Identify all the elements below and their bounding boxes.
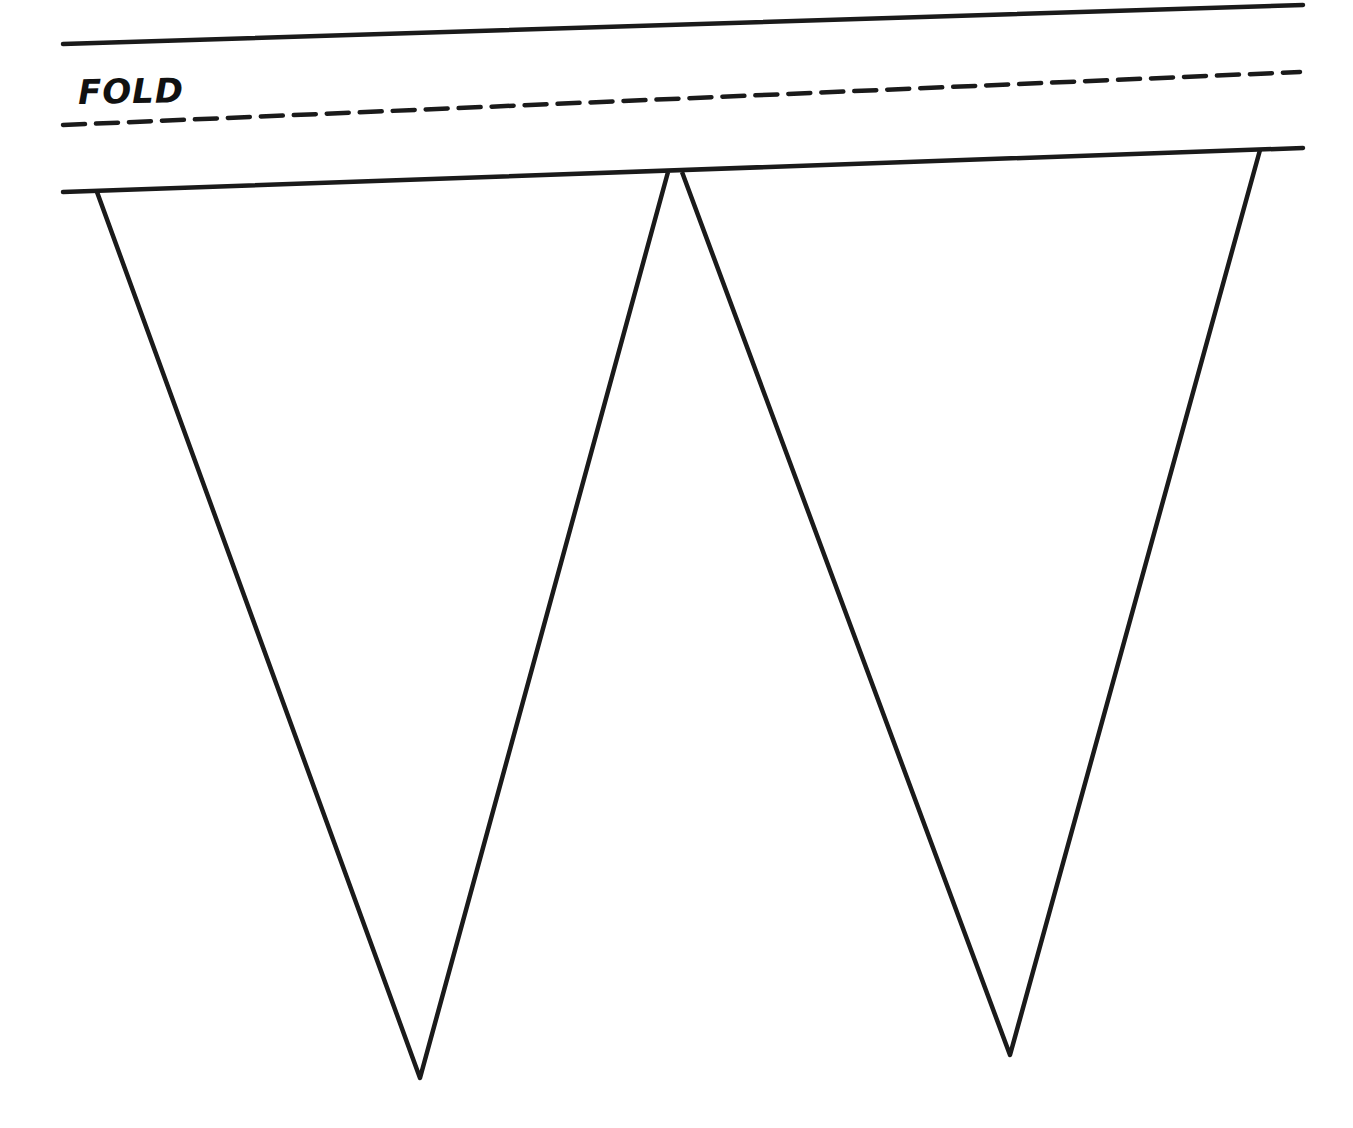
strip-top-line bbox=[63, 5, 1303, 44]
bunting-template bbox=[0, 0, 1353, 1128]
strip-bottom-line bbox=[63, 148, 1303, 192]
fold-dashed-line bbox=[63, 72, 1300, 125]
fold-label: FOLD bbox=[78, 70, 185, 112]
pennant-right bbox=[682, 150, 1260, 1055]
pennant-left bbox=[97, 172, 668, 1078]
